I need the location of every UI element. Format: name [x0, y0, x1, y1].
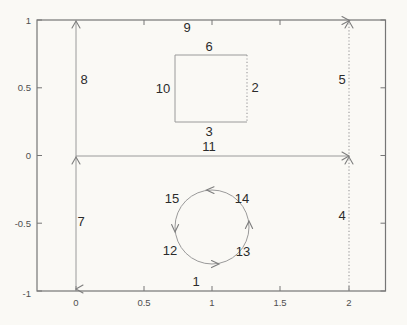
edge-label-3: 3 — [205, 124, 212, 139]
x-tick-label-15: 1.5 — [273, 297, 286, 308]
x-tick-label-05: 0.5 — [137, 297, 150, 308]
scanned-figure-page: 9 6 10 2 3 8 5 11 7 4 1 15 14 12 13 1 0.… — [0, 0, 407, 325]
edge-label-4: 4 — [338, 208, 345, 223]
edge-label-8: 8 — [80, 72, 87, 87]
edge-label-9: 9 — [183, 20, 190, 35]
y-tick-label-1: 1 — [26, 15, 31, 26]
x-tick-label-1: 1 — [209, 297, 214, 308]
edge-label-14: 14 — [235, 191, 249, 206]
edge-label-11: 11 — [202, 139, 216, 154]
edge-label-7: 7 — [77, 214, 84, 229]
geometry-plot: 9 6 10 2 3 8 5 11 7 4 1 15 14 12 13 1 0.… — [0, 0, 407, 325]
edge-label-6: 6 — [205, 39, 212, 54]
edge-label-5: 5 — [338, 72, 345, 87]
y-tick-label-m05: -0.5 — [15, 218, 31, 229]
edge-label-13: 13 — [236, 244, 250, 259]
y-tick-label-0: 0 — [26, 150, 31, 161]
x-tick-label-0: 0 — [73, 297, 78, 308]
x-tick-label-2: 2 — [346, 297, 351, 308]
y-tick-label-05: 0.5 — [18, 82, 31, 93]
edge-label-15: 15 — [165, 191, 179, 206]
y-tick-label-m1: -1 — [23, 288, 31, 299]
edge-label-2: 2 — [251, 80, 258, 95]
edge-label-12: 12 — [163, 243, 177, 258]
edge-label-1: 1 — [192, 274, 199, 289]
edge-label-10: 10 — [156, 81, 170, 96]
